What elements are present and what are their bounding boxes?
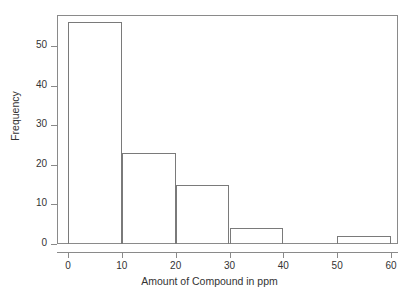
x-tick-label: 50 bbox=[317, 260, 357, 271]
x-tick-label: 20 bbox=[156, 260, 196, 271]
histogram-bar bbox=[337, 236, 391, 244]
y-tick-label: 50 bbox=[36, 39, 47, 50]
bars-layer bbox=[68, 15, 391, 244]
histogram-chart: 01020304050 0102030405060 Frequency Amou… bbox=[0, 0, 419, 297]
x-tick-mark bbox=[176, 252, 177, 258]
x-tick-mark bbox=[283, 252, 284, 258]
y-axis-title: Frequency bbox=[9, 66, 21, 166]
x-axis-title: Amount of Compound in ppm bbox=[0, 275, 419, 287]
histogram-bar bbox=[68, 22, 122, 244]
histogram-bar bbox=[122, 153, 176, 244]
x-tick-label: 10 bbox=[102, 260, 142, 271]
x-tick-label: 40 bbox=[263, 260, 303, 271]
y-tick-mark bbox=[51, 244, 57, 245]
x-tick-label: 60 bbox=[371, 260, 411, 271]
histogram-bar bbox=[230, 228, 284, 244]
x-tick-mark bbox=[337, 252, 338, 258]
y-axis-line bbox=[57, 15, 58, 244]
x-tick-mark bbox=[230, 252, 231, 258]
x-tick-mark bbox=[391, 252, 392, 258]
histogram-bar bbox=[176, 185, 230, 244]
x-tick-mark bbox=[68, 252, 69, 258]
x-tick-mark bbox=[122, 252, 123, 258]
y-tick-label: 30 bbox=[36, 118, 47, 129]
y-tick-label: 10 bbox=[36, 197, 47, 208]
y-tick-label: 20 bbox=[36, 158, 47, 169]
y-tick-label: 0 bbox=[41, 237, 47, 248]
y-tick-mark bbox=[51, 165, 57, 166]
y-tick-mark bbox=[51, 204, 57, 205]
y-tick-mark bbox=[51, 125, 57, 126]
y-tick-mark bbox=[51, 46, 57, 47]
y-tick-label: 40 bbox=[36, 79, 47, 90]
x-axis-line bbox=[57, 252, 398, 253]
x-tick-label: 0 bbox=[48, 260, 88, 271]
x-tick-label: 30 bbox=[210, 260, 250, 271]
y-tick-mark bbox=[51, 86, 57, 87]
